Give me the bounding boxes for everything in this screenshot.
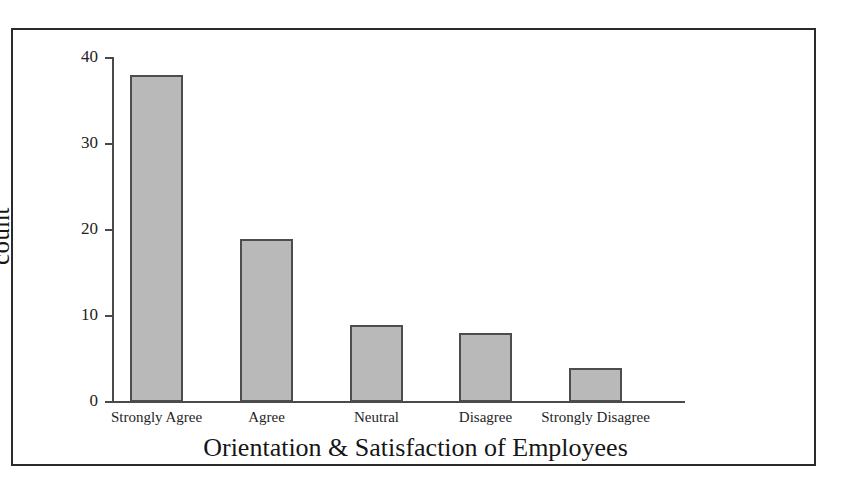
bar-disagree[interactable] [459,333,512,402]
figure-frame: count 40 30 20 10 0 [11,28,816,466]
y-tick-10: 10 [105,315,113,317]
y-tick-label: 20 [81,219,98,238]
plot-canvas: count 40 30 20 10 0 [13,30,818,468]
x-tick-label-strongly-agree: Strongly Agree [103,408,210,426]
y-tick-label: 0 [90,391,99,410]
y-tick-30: 30 [105,143,113,145]
y-tick-mark [105,143,113,145]
y-tick-0: 0 [105,401,113,403]
y-tick-label: 30 [81,133,98,152]
x-tick-label-agree: Agree [213,408,320,426]
bar-agree[interactable] [240,239,293,402]
bar-neutral[interactable] [350,325,403,402]
y-tick-mark [105,57,113,59]
y-tick-label: 40 [81,47,98,66]
y-tick-mark [105,401,113,403]
y-tick-label: 10 [81,305,98,324]
x-tick-label-disagree: Disagree [432,408,539,426]
bar-strongly-agree[interactable] [130,75,183,402]
y-tick-40: 40 [105,57,113,59]
x-tick-label-neutral: Neutral [323,408,430,426]
x-tick-label-strongly-disagree: Strongly Disagree [527,408,664,426]
clipped-header-remnant [250,0,600,3]
x-axis-title: Orientation & Satisfaction of Employees [13,433,818,463]
y-tick-20: 20 [105,229,113,231]
y-axis-title: count [0,235,106,265]
y-tick-mark [105,229,113,231]
y-tick-mark [105,315,113,317]
bar-strongly-disagree[interactable] [569,368,622,402]
